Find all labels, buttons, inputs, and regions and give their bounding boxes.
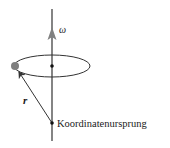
origin-dot [50,121,54,125]
position-vector-label: r [23,94,28,106]
rotation-diagram: ω r Koordinatenursprung [0,0,170,148]
origin-label: Koordinatenursprung [57,118,148,129]
particle-dot [11,62,19,70]
omega-label: ω [59,24,66,35]
orbit-center-dot [50,64,54,68]
